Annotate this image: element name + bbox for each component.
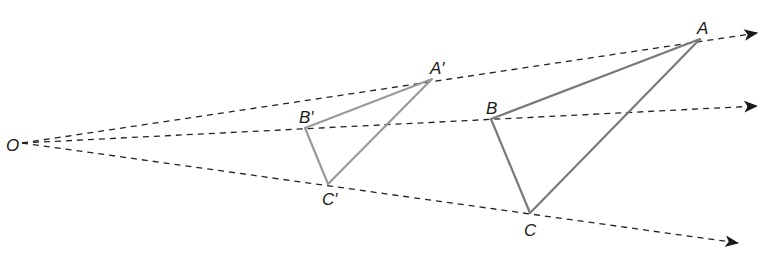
vertex-label: A: [696, 19, 708, 38]
diagram-canvas: O A′B′C′ABC: [0, 0, 762, 266]
vertex-label: B: [486, 99, 497, 118]
original-triangle: [491, 39, 700, 213]
ray-to-B: [22, 106, 757, 143]
vertex-label: B′: [299, 108, 314, 127]
vertex-label: C: [524, 221, 537, 240]
triangle-abc: [491, 39, 700, 213]
vertex-label: C′: [322, 190, 338, 209]
dilation-diagram: O A′B′C′ABC: [0, 0, 762, 266]
dilation-rays: [22, 33, 757, 243]
ray-to-A: [22, 33, 757, 143]
vertex-label: A′: [429, 59, 445, 78]
image-triangle: [305, 79, 432, 184]
triangle-a-prime-b-prime-c-prime: [305, 79, 432, 184]
center-label-o: O: [6, 136, 19, 155]
ray-to-C: [22, 143, 738, 243]
